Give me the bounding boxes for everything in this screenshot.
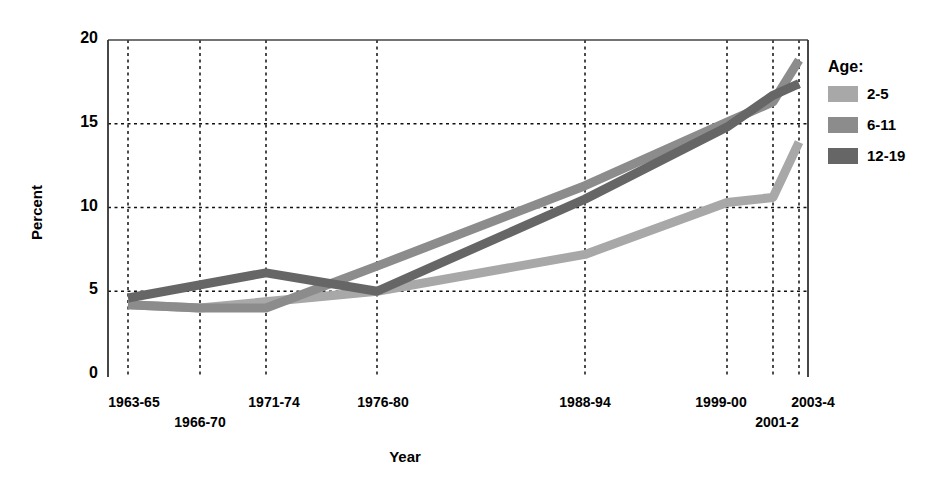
legend-item-2-5: 2-5 xyxy=(828,85,905,102)
series-line-6-11 xyxy=(128,60,799,308)
y-tick-0: 0 xyxy=(52,364,98,382)
legend-label-6-11: 6-11 xyxy=(867,116,896,133)
x-axis-title: Year xyxy=(0,448,810,465)
legend-swatch-6-11 xyxy=(828,117,858,133)
legend-title: Age: xyxy=(828,58,905,76)
legend-label-12-19: 12-19 xyxy=(867,147,905,164)
legend-item-6-11: 6-11 xyxy=(828,116,905,133)
x-tick-1976-80: 1976-80 xyxy=(357,394,408,410)
legend-label-2-5: 2-5 xyxy=(867,85,889,102)
x-tick-1988-94: 1988-94 xyxy=(559,394,610,410)
legend-swatch-12-19 xyxy=(828,148,858,164)
x-tick-1963-65: 1963-65 xyxy=(108,394,159,410)
series-line-12-19 xyxy=(128,84,799,298)
y-tick-5: 5 xyxy=(52,280,98,298)
legend-item-12-19: 12-19 xyxy=(828,147,905,164)
y-tick-15: 15 xyxy=(52,113,98,131)
x-tick-2003-4: 2003-4 xyxy=(791,394,835,410)
y-tick-20: 20 xyxy=(52,29,98,47)
data-series-group xyxy=(128,60,799,308)
x-tick-1966-70: 1966-70 xyxy=(174,414,225,430)
x-tick-1971-74: 1971-74 xyxy=(248,394,299,410)
x-tick-1999-00: 1999-00 xyxy=(695,394,746,410)
y-tick-10: 10 xyxy=(52,197,98,215)
x-tick-2001-2: 2001-2 xyxy=(755,414,799,430)
chart-legend: Age: 2-56-1112-19 xyxy=(828,58,905,178)
legend-items: 2-56-1112-19 xyxy=(828,85,905,164)
chart-container: 20151050 1963-651966-701971-741976-80198… xyxy=(0,0,951,480)
legend-swatch-2-5 xyxy=(828,86,858,102)
y-axis-title: Percent xyxy=(28,185,45,240)
